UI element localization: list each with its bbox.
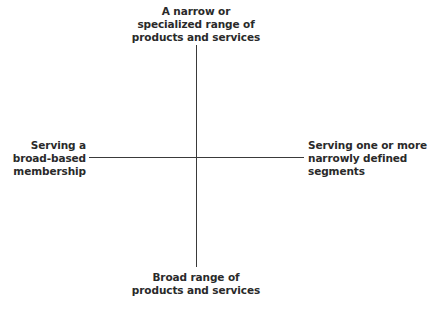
top-axis-label-line: products and services <box>96 31 296 44</box>
left-axis-label-line: broad-based <box>13 152 86 165</box>
bottom-axis-label: Broad range of products and services <box>96 271 296 297</box>
top-axis-label: A narrow or specialized range of product… <box>96 5 296 44</box>
bottom-axis-label-line: Broad range of <box>96 271 296 284</box>
vertical-axis-line <box>196 45 197 267</box>
right-axis-label: Serving one or more narrowly defined seg… <box>308 139 427 178</box>
right-axis-label-line: segments <box>308 165 427 178</box>
right-axis-label-line: narrowly defined <box>308 152 427 165</box>
horizontal-axis-line <box>89 157 304 158</box>
top-axis-label-line: specialized range of <box>96 18 296 31</box>
right-axis-label-line: Serving one or more <box>308 139 427 152</box>
left-axis-label: Serving a broad-based membership <box>13 139 86 178</box>
left-axis-label-line: membership <box>13 165 86 178</box>
left-axis-label-line: Serving a <box>13 139 86 152</box>
top-axis-label-line: A narrow or <box>96 5 296 18</box>
bottom-axis-label-line: products and services <box>96 284 296 297</box>
